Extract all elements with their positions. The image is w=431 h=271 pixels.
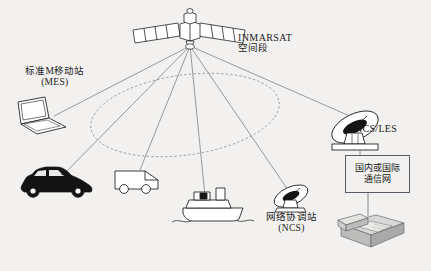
ship-wave-icon-2	[236, 220, 254, 221]
les-platform-icon	[332, 144, 378, 150]
van-mobile-station	[115, 171, 158, 193]
label-inmarsat-line1: INMARSAT	[238, 32, 292, 43]
satellite-beam-links	[54, 46, 352, 196]
ship-antenna-icon	[200, 193, 207, 199]
les-pedestal-icon	[344, 133, 365, 144]
inmarsat-satellite	[133, 9, 245, 50]
ship-superstructure-icon	[186, 200, 231, 208]
car-mobile-station	[21, 167, 92, 197]
laptop-terminal	[18, 97, 66, 134]
ship-wave-icon	[172, 221, 191, 222]
network-diagram-svg	[0, 0, 431, 271]
label-ncs-les: NCS/LES	[355, 123, 397, 134]
ncs-pedestal-icon	[283, 200, 298, 208]
telecom-network-box: 国内或国际 通信网	[345, 155, 410, 193]
label-ncs-line1: 网络协调站	[266, 212, 317, 223]
label-mes-line1: 标准M移动站	[25, 66, 85, 77]
label-mes: 标准M移动站 (MES)	[25, 66, 85, 87]
coverage-footprint-ellipse	[85, 62, 284, 168]
solar-panel-left-icon	[133, 23, 180, 43]
ncs-ground-station	[271, 180, 311, 212]
link-satellite-van	[140, 46, 190, 170]
satellite-body-icon	[180, 9, 200, 50]
ship-hull-icon	[183, 208, 243, 221]
van-wheel-rear	[142, 185, 151, 194]
link-satellite-ship	[190, 46, 205, 196]
network-box-line2: 通信网	[364, 174, 391, 185]
label-ncs-line2: (NCS)	[266, 223, 317, 234]
diagram-canvas: INMARSAT 空间段 标准M移动站 (MES) NCS/LES 网络协调站 …	[0, 0, 431, 271]
ship-mobile-station	[172, 188, 254, 222]
label-mes-line2: (MES)	[25, 77, 85, 88]
telephone-fax-terminal	[338, 214, 404, 247]
label-ncs: 网络协调站 (NCS)	[266, 212, 317, 233]
label-inmarsat-line2: 空间段	[238, 43, 292, 54]
network-box-line1: 国内或国际	[355, 163, 400, 174]
label-inmarsat: INMARSAT 空间段	[238, 32, 292, 54]
ship-funnel-icon	[216, 188, 225, 200]
van-wheel-front	[120, 185, 129, 194]
